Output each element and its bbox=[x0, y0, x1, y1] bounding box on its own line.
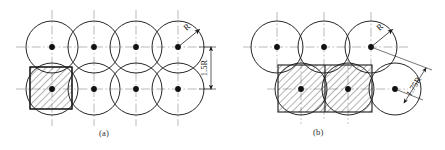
panel-caption-b: (b) bbox=[313, 127, 324, 137]
figure-container: R 1.5R bbox=[0, 0, 445, 150]
panel-caption-a: (a) bbox=[99, 128, 109, 138]
packing-diagram-svg: R 1.5R bbox=[0, 0, 445, 150]
spacing-label-a: 1.5R bbox=[199, 60, 209, 77]
bottom-bleed-text bbox=[150, 143, 300, 149]
